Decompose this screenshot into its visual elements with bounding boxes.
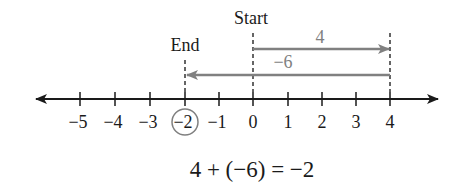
start-label: Start [234,8,268,28]
tick-label: −1 [207,112,226,132]
tick-label: −5 [68,112,87,132]
tick-label: 1 [284,112,293,132]
move2-label: −6 [273,52,292,72]
tick-label: 0 [249,112,258,132]
tick-label: 2 [318,112,327,132]
tick-label: −2 [173,112,192,132]
tick-label: −3 [138,112,157,132]
move1-label: 4 [316,27,325,47]
end-label: End [171,35,200,55]
tick-label: −4 [103,112,122,132]
tick-label: 4 [386,112,395,132]
tick-label: 3 [352,112,361,132]
number-line-diagram: Start End 4 −6 −5 −4 −3 −2 −1 0 1 2 3 4 … [0,0,458,194]
equation: 4 + (−6) = −2 [190,157,315,182]
tick-labels: −5 −4 −3 −2 −1 0 1 2 3 4 [68,112,394,132]
